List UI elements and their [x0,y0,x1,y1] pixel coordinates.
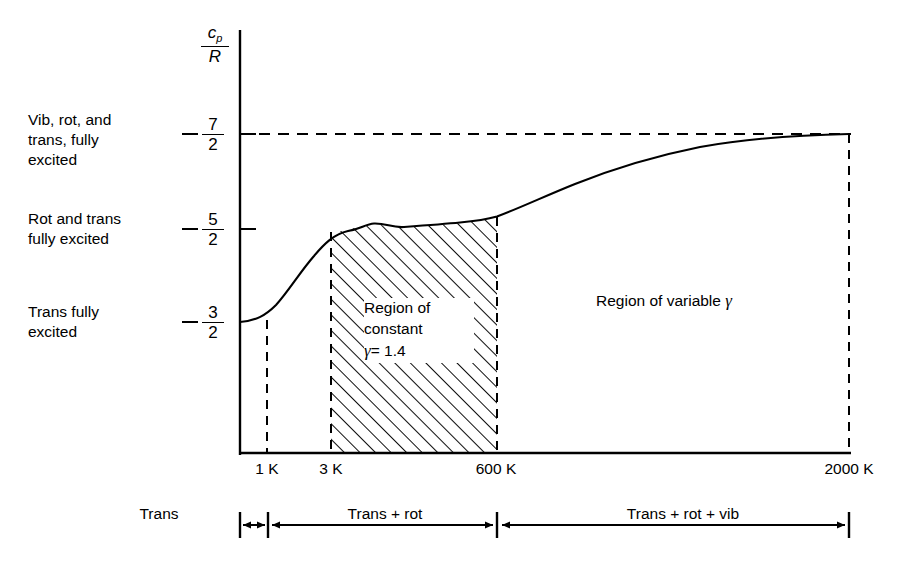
region-label-variable-gamma: Region of variable γ [596,290,826,313]
left-label-trans-fully-excited: Trans fully excited [28,302,178,342]
band-label-trans-rot: Trans + rot [320,505,450,523]
y-tick-label-three-halves: 3 2 [200,304,226,341]
left-label-line: trans, fully [28,130,178,150]
left-label-rot-and-trans: Rot and trans fully excited [28,209,178,249]
gamma-symbol: γ [725,291,732,310]
region-label-line: Region of [364,298,474,319]
left-label-line: fully excited [28,229,178,249]
region-label-text: Region of variable [596,292,725,309]
y-axis-title-numerator: cp [198,24,232,45]
x-tick-label-2000k: 2000 K [797,460,901,478]
x-tick-label-3k: 3 K [301,460,361,478]
left-label-line: Rot and trans [28,209,178,229]
band-arrow-trans [240,512,268,538]
x-tick-label-1k: 1 K [237,460,297,478]
y-axis-title-denominator: R [198,48,232,66]
y-axis-title: cp R [198,24,232,66]
left-label-line: Trans fully [28,302,178,322]
band-label-trans-rot-vib: Trans + rot + vib [598,505,768,523]
thermodynamics-cp-r-diagram: cp R 7 2 5 2 3 2 Vib, rot, and trans, fu… [0,0,915,569]
left-label-line: excited [28,322,178,342]
left-label-line: Vib, rot, and [28,110,178,130]
region-label-constant-gamma: Region of constant γ= 1.4 [364,298,474,363]
region-label-gamma-value: γ= 1.4 [364,340,474,363]
x-tick-label-600k: 600 K [452,460,540,478]
plot-canvas [0,0,915,569]
y-tick-label-seven-halves: 7 2 [200,116,226,153]
band-label-trans: Trans [114,505,204,523]
y-tick-label-five-halves: 5 2 [200,211,226,248]
left-label-vib-rot-trans: Vib, rot, and trans, fully excited [28,110,178,169]
gamma-equals: = 1.4 [371,342,406,359]
region-label-line: constant [364,319,474,340]
left-label-line: excited [28,150,178,170]
gamma-symbol: γ [364,341,371,360]
